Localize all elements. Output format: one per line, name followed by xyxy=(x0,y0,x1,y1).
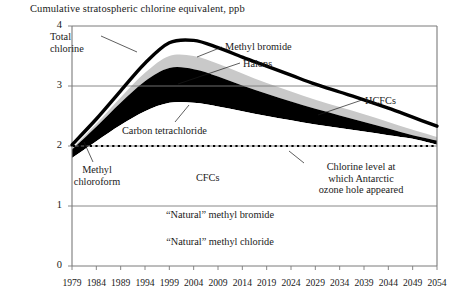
x-tick-label-2054: 2054 xyxy=(420,277,453,288)
y-tick-label-3: 3 xyxy=(46,79,62,90)
annotation-natural-methyl-chloride: “Natural” methyl chloride xyxy=(130,236,310,248)
annotation-threshold: Chlorine level at which Antarctic ozone … xyxy=(298,161,424,196)
annotation-total-chlorine-line1: Total xyxy=(50,31,84,43)
annotation-total-chlorine: Total chlorine xyxy=(50,31,84,54)
annotation-total-chlorine-line2: chlorine xyxy=(50,43,84,55)
annotation-methyl-chloroform: Methyl chloroform xyxy=(62,164,132,187)
annotation-natural-methyl-bromide: “Natural” methyl bromide xyxy=(130,209,310,221)
annotation-threshold-line2: which Antarctic xyxy=(298,173,424,185)
annotation-hcfcs: HCFCs xyxy=(365,95,396,107)
chlorine-equivalent-figure: Cumulative stratospheric chlorine equiva… xyxy=(0,0,453,299)
annotation-methyl-bromide: Methyl bromide xyxy=(225,41,292,53)
y-tick-label-1: 1 xyxy=(46,199,62,210)
annotation-methyl-chloroform-line2: chloroform xyxy=(62,176,132,188)
y-tick-label-4: 4 xyxy=(46,19,62,30)
annotation-methyl-chloroform-line1: Methyl xyxy=(62,164,132,176)
annotation-threshold-line1: Chlorine level at xyxy=(298,161,424,173)
annotation-halons: Halons xyxy=(243,58,272,70)
annotation-carbon-tetrachloride: Carbon tetrachloride xyxy=(122,125,207,137)
y-tick-label-0: 0 xyxy=(46,259,62,270)
annotation-threshold-line3: ozone hole appeared xyxy=(298,184,424,196)
y-tick-label-2: 2 xyxy=(46,139,62,150)
annotation-cfcs: CFCs xyxy=(196,172,219,184)
